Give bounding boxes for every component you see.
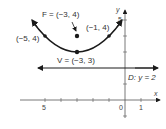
directrix-label: D: y = 2: [128, 73, 156, 82]
focus-point: [75, 34, 79, 38]
focus-label: F = (−3, 4): [42, 10, 80, 19]
directrix-line: D: y = 2: [38, 68, 158, 82]
x-tick-neg5: 5: [42, 104, 46, 111]
parabola-diagram: y 5 x 5 0 1 D: y = 2 F = (−3, 4) (−1, 4)…: [0, 0, 166, 129]
x-axis-label: x: [153, 90, 158, 97]
point-neg5-4-label: (−5, 4): [16, 34, 40, 43]
point-neg1-4-label: (−1, 4): [86, 23, 110, 32]
vertex-label: V = (−3, 3): [57, 56, 95, 65]
x-axis: x 5 0 1: [20, 90, 160, 111]
point-neg1-4: [107, 34, 111, 38]
point-neg5-4: [43, 34, 47, 38]
x-tick-0: 0: [119, 104, 123, 111]
x-tick-1: 1: [139, 104, 143, 111]
y-axis-label: y: [115, 6, 120, 14]
vertex-point: [75, 50, 79, 54]
